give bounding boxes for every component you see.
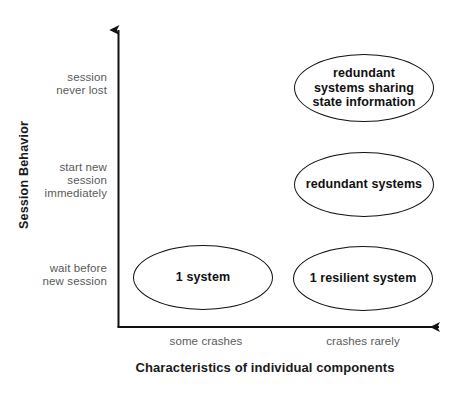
y-tick-label-session-never-lost: session never lost (56, 71, 107, 97)
node-one-system[interactable]: 1 system (133, 245, 273, 310)
node-label: 1 resilient system (300, 271, 427, 286)
y-tick-label-wait-before-new-session: wait before new session (43, 262, 107, 288)
y-axis-title: Session Behavior (17, 95, 31, 255)
y-tick-label-start-new-session: start new session immediately (45, 161, 107, 200)
x-axis-title: Characteristics of individual components (60, 360, 470, 375)
node-label: 1 system (166, 270, 240, 285)
node-label: redundant systems (296, 177, 432, 192)
node-one-resilient-system[interactable]: 1 resilient system (293, 246, 433, 311)
node-redundant-systems-sharing-state[interactable]: redundant systems sharing state informat… (294, 54, 434, 122)
x-tick-label-crashes-rarely: crashes rarely (293, 334, 433, 348)
node-redundant-systems[interactable]: redundant systems (294, 152, 434, 217)
diagram-canvas: session never lost start new session imm… (0, 0, 471, 396)
x-tick-label-some-crashes: some crashes (136, 334, 276, 348)
node-label: redundant systems sharing state informat… (302, 66, 425, 110)
